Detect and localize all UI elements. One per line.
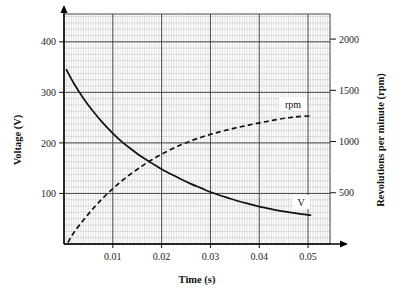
x-tick-label: 0.01: [104, 251, 122, 262]
annotation-rpm: rpm: [279, 97, 307, 111]
y-tick-label: 400: [41, 36, 56, 47]
annotation-v: V: [293, 195, 309, 209]
major-gridlines: [64, 14, 330, 244]
y2-axis-tick-labels: 500100015002000: [339, 34, 359, 199]
y2-tick-label: 2000: [339, 34, 359, 45]
y2-tick-label: 500: [339, 187, 354, 198]
y2-tick-label: 1000: [339, 136, 359, 147]
plot-border: [64, 14, 330, 244]
x-axis-tick-labels: 0.010.020.030.040.05: [104, 251, 317, 262]
x-tick-label: 0.05: [299, 251, 317, 262]
x-tick-label: 0.04: [250, 251, 268, 262]
y2-tick-label: 1500: [339, 85, 359, 96]
y-tick-label: 100: [41, 188, 56, 199]
annotation-v-label: V: [297, 197, 305, 208]
y-tick-label: 200: [41, 138, 56, 149]
y-axis-tick-labels: 100200300400: [41, 36, 56, 199]
voltage-rpm-line-chart: 100200300400 500100015002000 0.010.020.0…: [0, 0, 402, 293]
x-axis-title: Time (s): [179, 274, 216, 286]
y-tick-label: 300: [41, 87, 56, 98]
annotation-rpm-label: rpm: [285, 99, 301, 110]
minor-gridlines: [64, 14, 330, 244]
chart-figure: 100200300400 500100015002000 0.010.020.0…: [0, 0, 402, 293]
y-axis-title: Voltage (V): [12, 114, 24, 165]
x-tick-label: 0.02: [153, 251, 171, 262]
x-tick-label: 0.03: [202, 251, 220, 262]
y2-axis-title: Revolutions per minute (rpm): [375, 73, 387, 207]
